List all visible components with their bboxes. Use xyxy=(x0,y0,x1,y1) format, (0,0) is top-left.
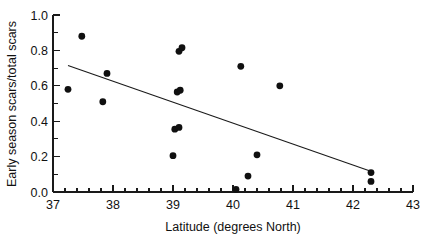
chart-canvas: 0.00.20.40.60.81.0 37383940414243 Latitu… xyxy=(0,0,426,236)
x-tick-label: 41 xyxy=(286,198,300,212)
data-point xyxy=(177,87,184,94)
data-point xyxy=(237,63,244,70)
scatter-plot-figure: 0.00.20.40.60.81.0 37383940414243 Latitu… xyxy=(0,0,426,236)
data-point xyxy=(254,151,261,158)
y-axis-ticks xyxy=(53,15,60,192)
data-point xyxy=(233,186,240,193)
data-point xyxy=(179,44,186,51)
data-point xyxy=(170,152,177,159)
y-tick-label: 0.4 xyxy=(31,115,48,129)
data-point xyxy=(245,173,252,180)
regression-line xyxy=(68,65,372,171)
x-tick-label: 40 xyxy=(226,198,240,212)
y-tick-label: 0.6 xyxy=(31,79,48,93)
data-point xyxy=(368,178,375,185)
y-tick-label: 0.2 xyxy=(31,150,48,164)
data-point xyxy=(65,86,72,93)
y-tick-label: 0.8 xyxy=(31,44,48,58)
y-axis-tick-labels: 0.00.20.40.60.81.0 xyxy=(31,9,48,200)
data-point xyxy=(368,169,375,176)
x-axis-tick-labels: 37383940414243 xyxy=(46,198,420,212)
x-axis-title: Latitude (degrees North) xyxy=(165,220,301,234)
y-axis-title: Early season scars/total scars xyxy=(5,21,19,187)
y-tick-label: 1.0 xyxy=(31,9,48,23)
data-point xyxy=(78,33,85,40)
x-tick-label: 42 xyxy=(346,198,360,212)
data-point xyxy=(104,70,111,77)
data-point xyxy=(176,124,183,131)
x-tick-label: 38 xyxy=(106,198,120,212)
axes-group xyxy=(53,15,413,192)
x-tick-label: 43 xyxy=(406,198,420,212)
data-point xyxy=(99,98,106,105)
data-points-group xyxy=(65,33,375,193)
data-point xyxy=(276,82,283,89)
x-tick-label: 39 xyxy=(166,198,180,212)
x-tick-label: 37 xyxy=(46,198,60,212)
